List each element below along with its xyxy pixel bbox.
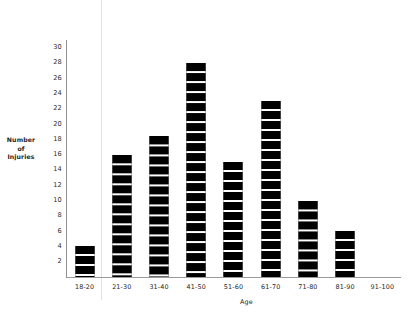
y-tick-label: 6 <box>40 228 62 235</box>
y-tick-label: 24 <box>40 90 62 97</box>
y-tick-label: 12 <box>40 182 62 189</box>
y-tick-label: 2 <box>40 258 62 265</box>
y-tick-label: 4 <box>40 243 62 250</box>
x-axis-line <box>66 277 401 278</box>
bar-slot <box>66 40 103 277</box>
y-tick-label: 30 <box>40 44 62 51</box>
bar-slot <box>215 40 252 277</box>
x-axis-tick-labels: 18-2021-3031-4041-5051-6061-7071-8081-90… <box>66 283 401 297</box>
bar-slot <box>103 40 140 277</box>
bar-slot <box>252 40 289 277</box>
plot-area <box>66 40 401 277</box>
y-axis-title-line-2: of <box>4 145 38 154</box>
bar-chart: Number of Injuries 302826242220181614121… <box>0 0 415 314</box>
bar <box>298 201 317 277</box>
y-tick-label: 28 <box>40 59 62 66</box>
x-axis-title-text: Age <box>240 298 253 306</box>
y-tick-label: 26 <box>40 75 62 82</box>
x-axis-title: Age <box>0 298 415 306</box>
y-tick-label: 14 <box>40 166 62 173</box>
y-tick-label: 10 <box>40 197 62 204</box>
bar <box>150 136 169 277</box>
y-tick-label: 16 <box>40 151 62 158</box>
y-axis-tick-labels: 30282624222018161412108642 <box>38 0 62 314</box>
bar <box>187 63 206 277</box>
y-axis-title-line-1: Number <box>4 136 38 145</box>
bar-slot <box>289 40 326 277</box>
y-axis-title-line-3: Injuries <box>4 153 38 162</box>
bar <box>112 155 131 277</box>
bar-slot <box>364 40 401 277</box>
y-tick-label: 18 <box>40 136 62 143</box>
bar <box>336 231 355 277</box>
bar-slot <box>178 40 215 277</box>
y-tick-label: 20 <box>40 121 62 128</box>
y-tick-label: 22 <box>40 105 62 112</box>
bar-slot <box>140 40 177 277</box>
y-axis-title: Number of Injuries <box>4 136 38 162</box>
bar <box>261 101 280 277</box>
y-tick-label: 8 <box>40 212 62 219</box>
bar <box>75 246 94 277</box>
x-tick-label: 91-100 <box>360 283 404 291</box>
bar <box>224 162 243 277</box>
bar-slot <box>327 40 364 277</box>
